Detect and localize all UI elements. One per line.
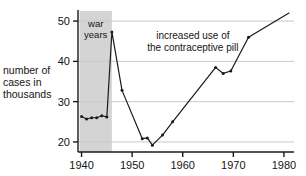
x-tick-label-1960: 1960 xyxy=(170,159,194,171)
data-point-marker xyxy=(95,116,98,119)
data-point-marker xyxy=(161,134,164,137)
y-axis-label-line-3: thousands xyxy=(3,88,73,100)
x-tick-label-1970: 1970 xyxy=(221,159,245,171)
data-point-marker xyxy=(80,115,83,118)
chart-figure: number of cases in thousands 20304050 19… xyxy=(0,0,306,176)
data-point-marker xyxy=(85,117,88,120)
data-point-marker xyxy=(247,36,250,39)
data-point-marker xyxy=(151,144,154,147)
x-tick-label-1980: 1980 xyxy=(272,159,296,171)
data-point-marker xyxy=(105,115,108,118)
data-point-marker xyxy=(171,120,174,123)
y-tick-label-50: 50 xyxy=(58,15,70,27)
data-point-marker xyxy=(141,137,144,140)
war-years-label-line-2: years xyxy=(84,29,107,40)
x-tick-label-1940: 1940 xyxy=(69,159,93,171)
x-tick-label-1950: 1950 xyxy=(120,159,144,171)
war-years-label-line-1: war xyxy=(87,18,103,29)
data-point-marker xyxy=(121,89,124,92)
y-axis-label-line-2: cases in xyxy=(3,76,73,88)
data-point-marker xyxy=(110,30,113,33)
data-point-marker xyxy=(90,116,93,119)
y-axis-label-line-1: number of xyxy=(3,64,73,76)
data-point-marker xyxy=(146,136,149,139)
y-axis-label: number of cases in thousands xyxy=(3,64,73,101)
data-point-marker xyxy=(229,70,232,73)
contraceptive-pill-label-line-2: the contraceptive pill xyxy=(147,42,238,53)
data-point-marker xyxy=(222,72,225,75)
contraceptive-pill-label-line-1: increased use of xyxy=(156,30,230,41)
data-point-marker xyxy=(214,66,217,69)
data-point-marker xyxy=(100,114,103,117)
y-tick-label-20: 20 xyxy=(58,136,70,148)
